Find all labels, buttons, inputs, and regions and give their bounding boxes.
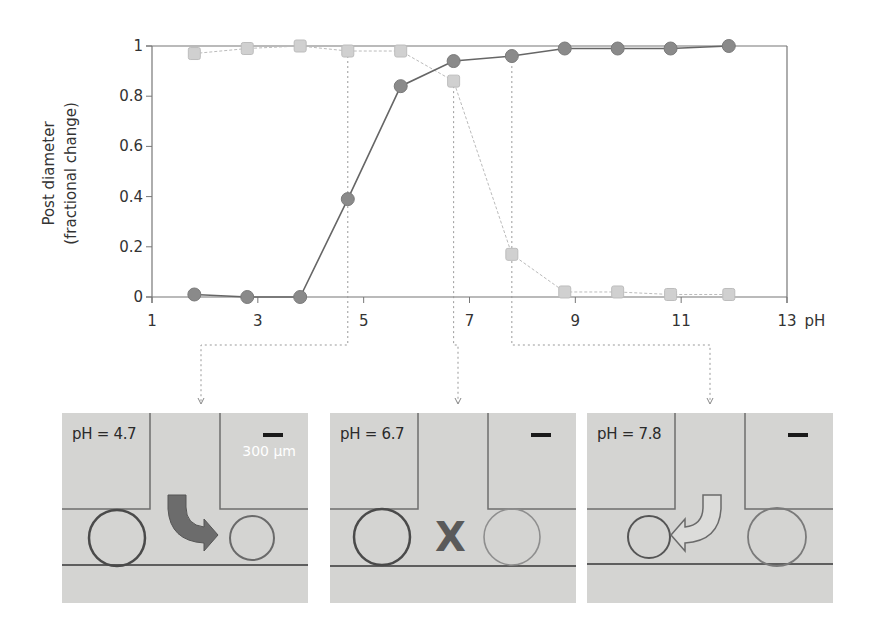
micrograph-panel-ph-6-7: X pH = 6.7: [330, 413, 576, 603]
square-marker: [188, 48, 200, 60]
circle-marker: [241, 291, 254, 304]
ph-connector: [454, 81, 461, 404]
circle-marker: [722, 40, 735, 53]
square-marker: [294, 40, 306, 52]
scale-bar: [263, 433, 283, 437]
x-tick-label: 1: [147, 312, 157, 330]
x-axis-label: pH: [805, 312, 826, 330]
y-tick-label: 0.2: [119, 238, 143, 256]
y-tick-label: 1: [133, 37, 143, 55]
square-marker: [395, 45, 407, 57]
ph-connector: [198, 51, 348, 404]
ph-connector: [512, 56, 713, 404]
circle-marker: [294, 291, 307, 304]
square-marker: [665, 288, 677, 300]
scale-bar-label: 300 μm: [242, 443, 296, 459]
circle-marker: [664, 42, 677, 55]
x-tick-label: 11: [672, 312, 691, 330]
circle-marker: [188, 288, 201, 301]
square-marker: [506, 248, 518, 260]
x-tick-label: 3: [253, 312, 263, 330]
square-marker: [559, 286, 571, 298]
y-tick-label: 0.8: [119, 87, 143, 105]
circle-marker: [341, 193, 354, 206]
scale-bar: [788, 433, 808, 437]
scale-bar: [531, 433, 551, 437]
square-marker: [241, 43, 253, 55]
y-axis-label: (fractional change): [62, 102, 80, 245]
x-tick-label: 5: [359, 312, 369, 330]
micrograph-panel-ph-4-7: pH = 4.7 300 μm: [62, 413, 308, 603]
y-tick-label: 0.4: [119, 188, 143, 206]
panel-ph-label: pH = 7.8: [597, 425, 661, 443]
series-squares-line: [194, 46, 728, 294]
circle-marker: [447, 55, 460, 68]
series-circles-line: [194, 46, 728, 297]
circle-marker: [505, 50, 518, 63]
circle-marker: [611, 42, 624, 55]
panel-ph-label: pH = 6.7: [340, 425, 404, 443]
y-tick-label: 0: [133, 288, 143, 306]
y-tick-label: 0.6: [119, 137, 143, 155]
square-marker: [342, 45, 354, 57]
square-marker: [612, 286, 624, 298]
panel-ph-label: pH = 4.7: [72, 425, 136, 443]
x-tick-label: 9: [571, 312, 581, 330]
x-mark-icon: X: [435, 514, 466, 560]
circle-marker: [394, 80, 407, 93]
micrograph-panel-ph-7-8: pH = 7.8: [587, 413, 833, 603]
ph-chart: 00.20.40.60.81135791113pHPost diameter(f…: [0, 0, 874, 410]
square-marker: [448, 75, 460, 87]
circle-marker: [558, 42, 571, 55]
x-tick-label: 13: [777, 312, 796, 330]
x-tick-label: 7: [465, 312, 475, 330]
arrow-down-icon: [455, 398, 461, 404]
y-axis-label: Post diameter: [40, 121, 58, 226]
square-marker: [723, 288, 735, 300]
